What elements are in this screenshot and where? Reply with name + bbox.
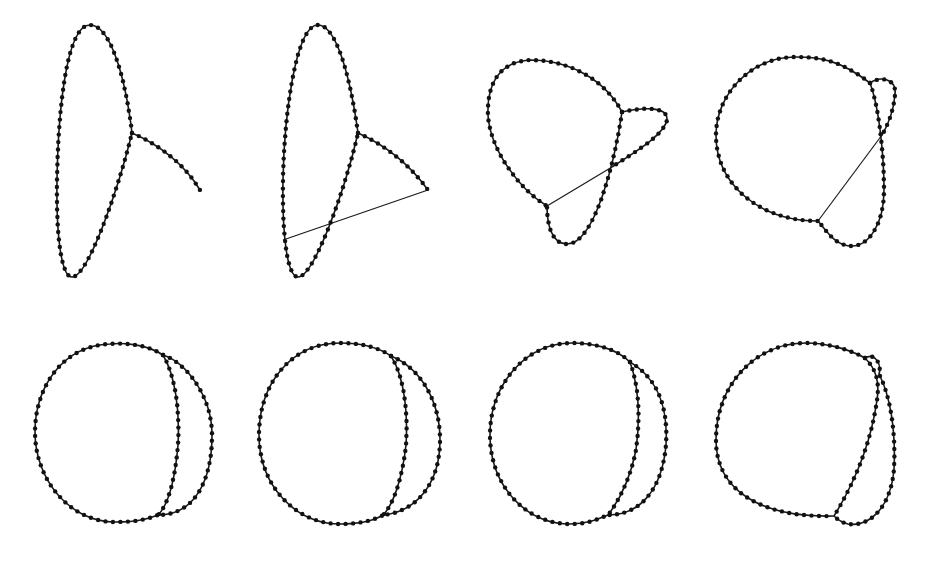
graph-node — [889, 410, 893, 414]
graph-node — [616, 351, 620, 355]
graph-node — [413, 371, 417, 375]
graph-node — [717, 461, 721, 465]
long-edge — [818, 135, 882, 221]
graph-node — [107, 208, 111, 212]
graph-node — [892, 462, 896, 466]
graph-node — [398, 374, 402, 378]
graph-node — [531, 194, 535, 198]
graph-node — [34, 411, 38, 415]
graph-node — [58, 117, 62, 121]
chain-path — [488, 60, 622, 206]
graph-node — [869, 427, 873, 431]
graph-node — [743, 73, 747, 77]
graph-node — [769, 348, 773, 352]
graph-node — [739, 370, 743, 374]
graph-node — [654, 386, 658, 390]
graph-node — [388, 150, 392, 154]
graph-node — [868, 234, 872, 238]
graph-node — [55, 215, 59, 219]
graph-node — [636, 396, 640, 400]
graph-node — [587, 520, 591, 524]
graph-node — [169, 374, 173, 378]
graph-node — [281, 179, 285, 183]
graph-node — [536, 515, 540, 519]
graph-node — [90, 249, 94, 253]
graph-node — [128, 116, 132, 120]
graph-node — [284, 362, 288, 366]
graph-node — [296, 353, 300, 357]
graph-layout-figure — [0, 0, 932, 563]
graph-node — [872, 95, 876, 99]
graph-node — [127, 109, 131, 113]
graph-node — [565, 522, 569, 526]
graph-node — [593, 211, 597, 215]
graph-node — [765, 505, 769, 509]
graph-node — [650, 107, 654, 111]
chain-path — [358, 133, 428, 190]
graph-node — [517, 503, 521, 507]
graph-node — [726, 388, 730, 392]
graph-node — [860, 455, 864, 459]
graph-node — [616, 132, 620, 136]
graph-node — [819, 223, 823, 227]
graph-node — [345, 171, 349, 175]
graph-node — [188, 501, 192, 505]
graph-node — [890, 417, 894, 421]
graph-node — [494, 399, 498, 403]
graph-node — [661, 459, 665, 463]
graph-node — [361, 343, 365, 347]
graph-node — [404, 419, 408, 423]
graph-node — [126, 519, 130, 523]
graph-node — [616, 498, 620, 502]
graph-node — [283, 134, 287, 138]
graph-node — [518, 361, 522, 365]
graph-node — [865, 441, 869, 445]
chain-path — [383, 356, 407, 515]
graph-node — [874, 405, 878, 409]
graph-node — [758, 205, 762, 209]
graph-node — [608, 169, 612, 173]
graph-node — [530, 352, 534, 356]
graph-node — [628, 470, 632, 474]
chain-path — [716, 343, 865, 516]
graph-node — [111, 520, 115, 524]
graph-node — [281, 171, 285, 175]
graph-node — [413, 500, 417, 504]
graph-node — [494, 75, 498, 79]
graph-node — [33, 426, 37, 430]
graph-node — [636, 504, 640, 508]
graph-node — [891, 477, 895, 481]
graph-node — [174, 360, 178, 364]
graph-node — [521, 184, 525, 188]
graph-node — [740, 192, 744, 196]
graph-node — [784, 55, 788, 59]
graph-node — [817, 514, 821, 518]
graph-node — [321, 520, 325, 524]
graph-node — [303, 349, 307, 353]
chain-path — [818, 83, 884, 246]
graph-node — [129, 123, 133, 127]
graph-node — [835, 517, 839, 521]
graph-node — [45, 477, 49, 481]
long-edge — [283, 190, 428, 240]
graph-node — [56, 140, 60, 144]
graph-node — [82, 513, 86, 517]
graph-node — [529, 511, 533, 515]
graph-node — [150, 141, 154, 145]
graph-node — [287, 261, 291, 265]
graph-node — [73, 274, 77, 278]
graph-node — [125, 150, 129, 154]
graph-node — [882, 185, 886, 189]
graph-node — [289, 82, 293, 86]
graph-node — [290, 357, 294, 361]
graph-node — [660, 400, 664, 404]
graph-node — [786, 215, 790, 219]
graph-node — [888, 116, 892, 120]
graph-node — [59, 252, 63, 256]
graph-node — [523, 357, 527, 361]
graph-node — [157, 512, 161, 516]
graph-node — [780, 509, 784, 513]
graph-node — [281, 186, 285, 190]
graph-node — [750, 360, 754, 364]
graph-node — [258, 445, 262, 449]
